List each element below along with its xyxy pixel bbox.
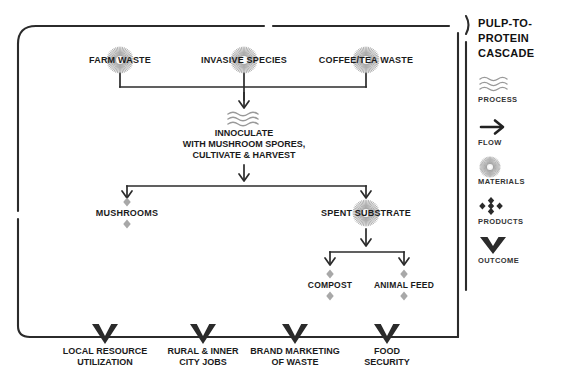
- chevron-down-icon: [282, 324, 308, 344]
- legend-label-process: PROCESS: [478, 95, 578, 104]
- legend-title: PULP-TO-PROTEIN CASCADE: [478, 16, 578, 61]
- outcome-label-3-line-2: SECURITY: [364, 357, 410, 368]
- node-label-stage2-0: MUSHROOMS: [96, 208, 158, 218]
- arrow-right-icon: [478, 117, 578, 137]
- outcome-label-0-line-1: LOCAL RESOURCE: [63, 346, 147, 357]
- diamond-marker-icon: [326, 291, 334, 300]
- chevron-down-icon: [374, 324, 400, 344]
- node-markers: [107, 47, 408, 301]
- process-node-label: INNOCULATEWITH MUSHROOM SPORES,CULTIVATE…: [183, 128, 306, 161]
- outcome-label-0-line-2: UTILIZATION: [63, 357, 147, 368]
- flow-stage3-bus: [330, 252, 404, 264]
- node-label-stage3-1: ANIMAL FEED: [374, 280, 434, 290]
- outcome-label-3-line-1: FOOD: [364, 346, 410, 357]
- legend-label-products: PRODUCTS: [478, 217, 578, 226]
- sunburst-circle-icon: [480, 157, 500, 177]
- frame-border: [18, 26, 458, 337]
- chevron-down-icon: [478, 235, 578, 255]
- outcome-label-2-line-1: BRAND MARKETING: [250, 346, 340, 357]
- legend-title-line2: CASCADE: [478, 46, 578, 61]
- outcome-label-1-line-2: CITY JOBS: [168, 357, 239, 368]
- outcome-label-1-line-1: RURAL & INNER: [168, 346, 239, 357]
- process-label-line-1: INNOCULATE: [183, 128, 306, 139]
- legend-label-flow: FLOW: [478, 138, 578, 147]
- flow-stage2-bus: [127, 186, 366, 197]
- legend-item-materials: MATERIALS: [478, 156, 578, 186]
- outcome-label-2: BRAND MARKETINGOF WASTE: [250, 346, 340, 368]
- legend-item-flow: FLOW: [478, 117, 578, 147]
- outcome-label-2-line-2: OF WASTE: [250, 357, 340, 368]
- outcome-chevrons: [92, 324, 400, 344]
- process-label-line-3: CULTIVATE & HARVEST: [183, 150, 306, 161]
- diamond-marker-icon: [400, 269, 408, 278]
- outcome-label-0: LOCAL RESOURCEUTILIZATION: [63, 346, 147, 368]
- chevron-down-icon: [190, 324, 216, 344]
- process-label-line-2: WITH MUSHROOM SPORES,: [183, 139, 306, 150]
- diamond-cluster-icon: [478, 196, 578, 216]
- diamond-marker-icon: [123, 219, 131, 228]
- waves-icon: [478, 74, 578, 94]
- node-label-source-2: COFFEE/TEA WASTE: [319, 55, 413, 65]
- sunburst-circle-icon: [478, 156, 578, 176]
- node-label-source-0: FARM WASTE: [89, 55, 151, 65]
- node-label-stage2-1: SPENT SUBSTRATE: [321, 208, 411, 218]
- legend-divider: [466, 16, 469, 290]
- legend-item-outcome: OUTCOME: [478, 235, 578, 265]
- legend-label-outcome: OUTCOME: [478, 256, 578, 265]
- process-waves-icon: [228, 112, 258, 125]
- flow-sources-to-process: [120, 70, 366, 100]
- legend-label-materials: MATERIALS: [478, 177, 578, 186]
- diagram-canvas: FARM WASTEINVASIVE SPECIESCOFFEE/TEA WAS…: [0, 0, 585, 385]
- outcome-label-1: RURAL & INNERCITY JOBS: [168, 346, 239, 368]
- legend-item-products: PRODUCTS: [478, 196, 578, 226]
- diamond-marker-icon: [400, 291, 408, 300]
- legend-title-line1: PULP-TO-PROTEIN: [478, 16, 578, 46]
- legend-item-process: PROCESS: [478, 74, 578, 104]
- node-label-stage3-0: COMPOST: [308, 280, 352, 290]
- diamond-marker-icon: [326, 269, 334, 278]
- chevron-down-icon: [92, 324, 118, 344]
- node-label-source-1: INVASIVE SPECIES: [201, 55, 287, 65]
- legend-panel: PULP-TO-PROTEIN CASCADE PROCESS FLOW: [478, 16, 578, 265]
- diamond-marker-icon: [123, 197, 131, 206]
- outcome-label-3: FOODSECURITY: [364, 346, 410, 368]
